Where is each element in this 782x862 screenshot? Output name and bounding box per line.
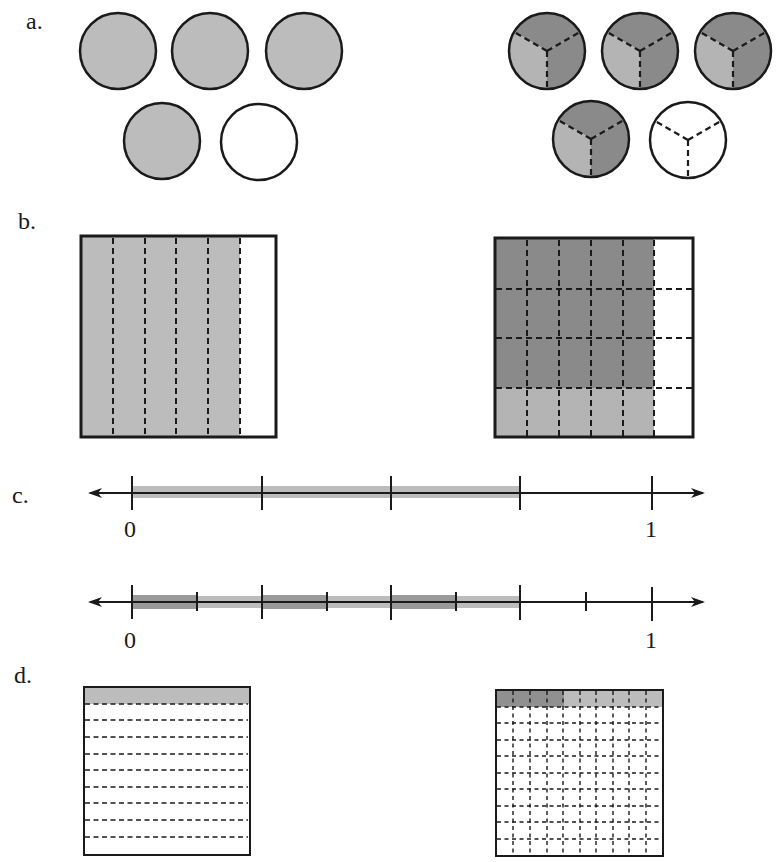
- part-a-left-circles: [80, 13, 342, 180]
- part-b-left-square: [81, 236, 276, 437]
- part-d-left-square: [84, 687, 250, 855]
- thirds-circle-shaded: [553, 101, 629, 177]
- whole-circle-empty: [221, 104, 297, 180]
- number-line-eighths: [90, 585, 703, 621]
- part-d-right-square: [496, 690, 663, 856]
- part-b-right-square: [495, 238, 693, 437]
- fraction-diagram: [0, 0, 782, 862]
- whole-circle-shaded: [172, 13, 248, 89]
- number-line-fourths: [90, 476, 703, 510]
- thirds-circle-empty: [650, 102, 726, 178]
- whole-circle-shaded: [124, 103, 200, 179]
- whole-circle-shaded: [266, 13, 342, 89]
- thirds-circle-shaded: [509, 13, 585, 89]
- part-a-right-circles: [509, 13, 771, 178]
- whole-circle-shaded: [80, 13, 156, 89]
- thirds-circle-shaded: [695, 13, 771, 89]
- thirds-circle-shaded: [602, 13, 678, 89]
